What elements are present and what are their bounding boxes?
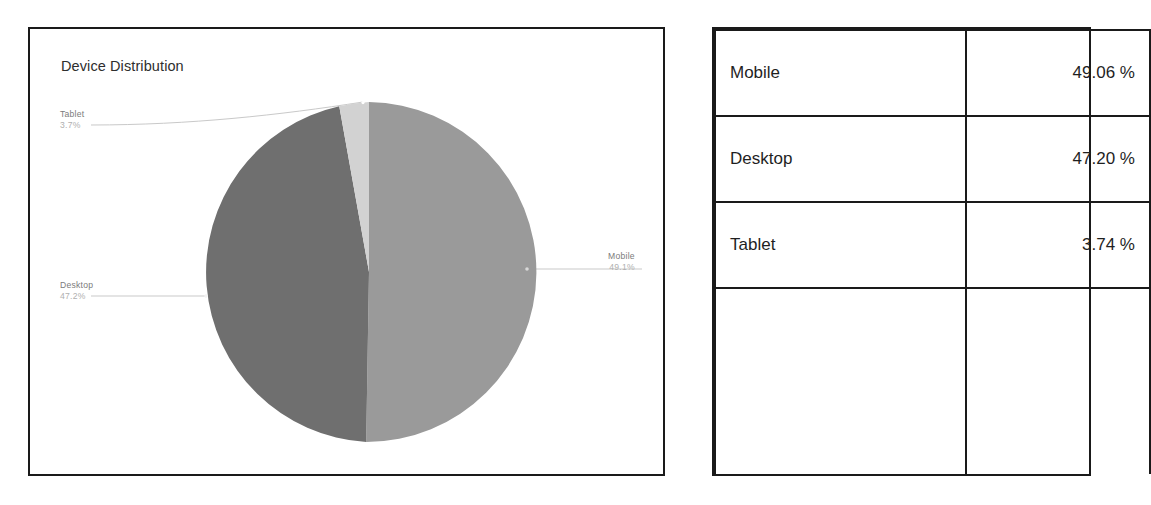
table-cell-label: Tablet — [715, 202, 966, 288]
table-cell-value: 49.06 % — [966, 30, 1150, 116]
pie-label-mobile-name: Mobile — [608, 251, 635, 262]
table-row: Desktop 47.20 % — [715, 116, 1150, 202]
pie-slice-mobile — [366, 102, 536, 442]
table-cell-label: Mobile — [715, 30, 966, 116]
table-empty-cell-label — [715, 288, 966, 474]
data-table: Mobile 49.06 % Desktop 47.20 % Tablet 3.… — [712, 27, 1091, 476]
table-cell-label: Desktop — [715, 116, 966, 202]
leader-dot-tablet — [361, 101, 364, 104]
pie-slice-desktop — [206, 106, 369, 442]
pie-label-tablet-name: Tablet — [60, 109, 84, 120]
table-row: Mobile 49.06 % — [715, 30, 1150, 116]
table-cell-value: 47.20 % — [966, 116, 1150, 202]
pie-label-desktop-value: 47.2% — [60, 291, 93, 302]
pie-label-desktop: Desktop 47.2% — [60, 280, 93, 302]
leader-dot-mobile — [525, 267, 529, 271]
pie-label-tablet-value: 3.7% — [60, 120, 84, 131]
pie-label-mobile-value: 49.1% — [608, 262, 635, 273]
table-empty-cell-value — [966, 288, 1150, 474]
pie-label-tablet: Tablet 3.7% — [60, 109, 84, 131]
pie-chart — [30, 29, 663, 474]
table-cell-value: 3.74 % — [966, 202, 1150, 288]
chart-panel: Device Distribution Tablet — [28, 27, 665, 476]
pie-label-desktop-name: Desktop — [60, 280, 93, 291]
leader-dot-desktop — [204, 294, 208, 298]
table-row: Tablet 3.74 % — [715, 202, 1150, 288]
pie-label-mobile: Mobile 49.1% — [608, 251, 635, 273]
pie-chart-svg — [30, 29, 667, 478]
table-empty-area — [715, 288, 1150, 474]
